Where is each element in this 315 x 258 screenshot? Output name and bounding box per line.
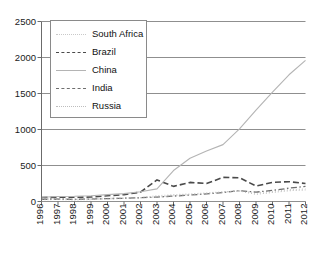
y-tick-label: 1500 xyxy=(2,89,36,98)
x-tick-label: 2012 xyxy=(298,203,312,249)
x-tick-label: 2005 xyxy=(183,203,197,249)
x-tick-label: 2007 xyxy=(216,203,230,249)
x-tick-label: 2002 xyxy=(133,203,147,249)
x-tick-label: 2004 xyxy=(166,203,180,249)
y-axis-labels: 05001000150020002500 xyxy=(0,0,36,258)
legend: South AfricaBrazilChinaIndiaRussia xyxy=(50,20,147,118)
x-tick-label: 2003 xyxy=(150,203,164,249)
legend-swatch-russia-icon xyxy=(56,101,86,111)
x-tick-label: 2008 xyxy=(232,203,246,249)
x-tick-label: 2001 xyxy=(117,203,131,249)
legend-label: India xyxy=(92,83,113,93)
x-axis-labels: 1996199719981999200020012002200320042005… xyxy=(41,203,305,258)
legend-swatch-brazil-icon xyxy=(56,47,86,57)
y-tick-label: 500 xyxy=(2,161,36,170)
x-tick-label: 2000 xyxy=(100,203,114,249)
cropped-chart-title xyxy=(41,0,305,2)
x-tick-label: 2010 xyxy=(265,203,279,249)
x-tick-label: 1998 xyxy=(67,203,81,249)
legend-swatch-china-icon xyxy=(56,65,86,75)
legend-item-china[interactable]: China xyxy=(51,61,146,79)
legend-item-russia[interactable]: Russia xyxy=(51,97,146,115)
y-tick-label: 2500 xyxy=(2,17,36,26)
line-chart: 05001000150020002500 1996199719981999200… xyxy=(0,0,315,258)
x-tick-label: 2009 xyxy=(249,203,263,249)
x-tick-label: 2006 xyxy=(199,203,213,249)
x-tick-label: 1996 xyxy=(34,203,48,249)
legend-item-southafrica[interactable]: South Africa xyxy=(51,25,146,43)
y-tick-label: 0 xyxy=(2,197,36,206)
legend-item-india[interactable]: India xyxy=(51,79,146,97)
legend-swatch-india-icon xyxy=(56,83,86,93)
legend-swatch-southafrica-icon xyxy=(56,29,86,39)
legend-label: Brazil xyxy=(92,47,116,57)
legend-label: Russia xyxy=(92,101,121,111)
legend-label: South Africa xyxy=(92,29,143,39)
x-tick-label: 2011 xyxy=(282,203,296,249)
x-tick-label: 1997 xyxy=(51,203,65,249)
legend-label: China xyxy=(92,65,117,75)
y-tick-label: 1000 xyxy=(2,125,36,134)
y-tick-label: 2000 xyxy=(2,53,36,62)
legend-item-brazil[interactable]: Brazil xyxy=(51,43,146,61)
x-tick-label: 1999 xyxy=(84,203,98,249)
